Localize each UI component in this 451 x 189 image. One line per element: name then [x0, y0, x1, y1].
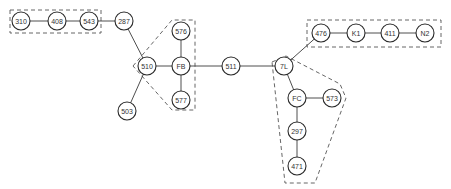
- node-label: 297: [291, 128, 303, 135]
- node-471: 471: [288, 157, 306, 175]
- node-label: 408: [51, 18, 63, 25]
- node-287: 287: [115, 12, 133, 30]
- nodes: 310408543287510503FB5765775117L476K1411N…: [12, 12, 434, 175]
- node-label: 543: [83, 18, 95, 25]
- node-label: 573: [326, 95, 338, 102]
- node-label: 7L: [280, 63, 288, 70]
- node-7L: 7L: [275, 57, 293, 75]
- node-label: 576: [175, 28, 187, 35]
- node-577: 577: [172, 91, 190, 109]
- node-411: 411: [381, 24, 399, 42]
- node-label: 503: [121, 108, 133, 115]
- node-310: 310: [12, 12, 30, 30]
- node-label: 511: [225, 63, 236, 70]
- node-label: 411: [384, 30, 395, 37]
- node-label: K1: [352, 30, 361, 37]
- node-label: N2: [421, 30, 430, 37]
- node-label: 287: [118, 18, 130, 25]
- node-576: 576: [172, 22, 190, 40]
- node-K1: K1: [347, 24, 365, 42]
- node-543: 543: [80, 12, 98, 30]
- node-label: 310: [15, 18, 27, 25]
- node-FB: FB: [172, 57, 190, 75]
- node-label: FC: [292, 95, 301, 102]
- node-label: 510: [141, 63, 153, 70]
- node-573: 573: [323, 89, 341, 107]
- edges: [21, 21, 425, 166]
- network-diagram: 310408543287510503FB5765775117L476K1411N…: [0, 0, 451, 189]
- node-label: FB: [177, 63, 186, 70]
- dashed-groups: [10, 10, 441, 183]
- node-503: 503: [118, 102, 136, 120]
- node-N2: N2: [416, 24, 434, 42]
- node-FC: FC: [288, 89, 306, 107]
- node-label: 476: [315, 30, 327, 37]
- node-476: 476: [312, 24, 330, 42]
- node-510: 510: [138, 57, 156, 75]
- node-297: 297: [288, 122, 306, 140]
- node-511: 511: [222, 57, 240, 75]
- node-label: 471: [291, 163, 303, 170]
- node-408: 408: [48, 12, 66, 30]
- node-label: 577: [175, 97, 187, 104]
